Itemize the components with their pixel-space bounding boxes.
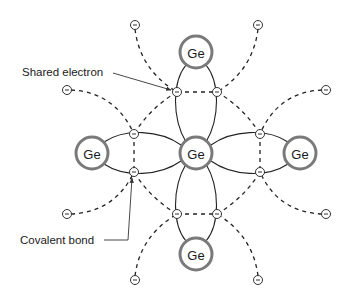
path-outer-left-top [71, 90, 134, 134]
shared-electron [213, 88, 222, 97]
path-outer-bottom-left [135, 214, 177, 276]
bond-center-top-right [206, 65, 217, 142]
path-outer-top-right [217, 29, 258, 92]
atom-ge-left: Ge [76, 137, 108, 169]
bond-center-left-bottom [104, 161, 181, 173]
atom-ge-center: Ge [180, 137, 212, 169]
atom-label: Ge [83, 147, 100, 162]
shared-electron [256, 168, 265, 177]
label-shared-electron: Shared electron [22, 66, 103, 78]
outer-electron [131, 21, 140, 30]
path-link-bottom-right [217, 172, 260, 214]
label-covalent-bond: Covalent bond [20, 234, 94, 246]
path-outer-left-bottom [71, 172, 134, 214]
outer-electron [254, 21, 263, 30]
bond-center-right-top [211, 133, 288, 145]
path-link-bottom-left [134, 172, 177, 214]
atom-ge-top: Ge [180, 36, 212, 68]
outer-electron [322, 86, 331, 95]
bond-center-top-left [176, 65, 187, 142]
outer-electron [63, 86, 72, 95]
atoms: Ge Ge Ge Ge Ge [76, 36, 316, 270]
callout-shared-electron: Shared electron [22, 66, 171, 90]
callout-covalent-bond: Covalent bond [20, 178, 132, 246]
germanium-lattice-diagram: Ge Ge Ge Ge Ge [0, 0, 348, 302]
shared-electron [256, 130, 265, 139]
path-outer-right-bottom [260, 172, 322, 214]
outer-electron [131, 276, 140, 285]
bond-center-bottom-left [176, 164, 187, 241]
shared-electron [213, 210, 222, 219]
outer-electron [254, 276, 263, 285]
atom-label: Ge [187, 248, 204, 263]
path-outer-bottom-right [217, 214, 258, 276]
bond-center-right-bottom [211, 161, 288, 173]
shared-electron [130, 168, 139, 177]
atom-ge-right: Ge [284, 137, 316, 169]
path-link-top-right [217, 92, 260, 134]
bond-center-left-top [104, 133, 181, 145]
shared-electron [173, 88, 182, 97]
atom-label: Ge [187, 147, 204, 162]
outer-electron [63, 210, 72, 219]
atom-ge-bottom: Ge [180, 238, 212, 270]
path-outer-top-left [135, 29, 177, 92]
outer-electron [322, 210, 331, 219]
atom-label: Ge [187, 46, 204, 61]
shared-electron [173, 210, 182, 219]
atom-label: Ge [291, 147, 308, 162]
bond-center-bottom-right [206, 164, 217, 241]
shared-electron [130, 130, 139, 139]
path-outer-right-top [260, 90, 322, 134]
path-link-top-left [134, 92, 177, 134]
